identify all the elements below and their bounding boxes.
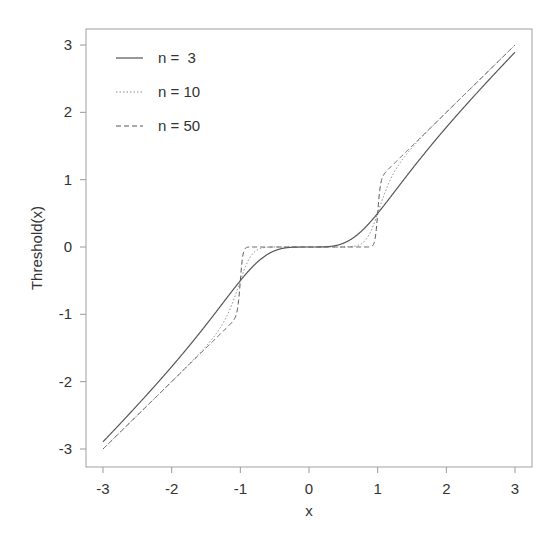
plot-frame	[86, 29, 532, 467]
y-axis-title: Threshold(x)	[28, 206, 45, 290]
x-tick-label: 2	[442, 480, 450, 497]
x-axis-title: x	[305, 502, 313, 519]
x-tick-label: -2	[165, 480, 178, 497]
y-tick-label: -2	[59, 373, 72, 390]
x-tick-label: -1	[234, 480, 247, 497]
y-tick-label: -1	[59, 305, 72, 322]
x-tick-label: 0	[305, 480, 313, 497]
y-tick-label: 2	[64, 103, 72, 120]
legend-label: n = 50	[158, 117, 200, 134]
legend-label: n = 3	[158, 49, 196, 66]
legend-label: n = 10	[158, 83, 200, 100]
y-tick-label: -3	[59, 440, 72, 457]
curve-n-50	[103, 45, 515, 449]
threshold-chart: -3-2-10123 -3-2-10123 n = 3n = 10n = 50 …	[0, 0, 558, 545]
y-tick-label: 0	[64, 238, 72, 255]
y-tick-label: 1	[64, 171, 72, 188]
curves	[103, 45, 515, 449]
x-tick-label: -3	[96, 480, 109, 497]
x-axis-ticks: -3-2-10123	[96, 467, 519, 497]
x-tick-label: 1	[373, 480, 381, 497]
y-axis-ticks: -3-2-10123	[59, 36, 86, 457]
legend: n = 3n = 10n = 50	[116, 49, 200, 134]
y-tick-label: 3	[64, 36, 72, 53]
x-tick-label: 3	[511, 480, 519, 497]
